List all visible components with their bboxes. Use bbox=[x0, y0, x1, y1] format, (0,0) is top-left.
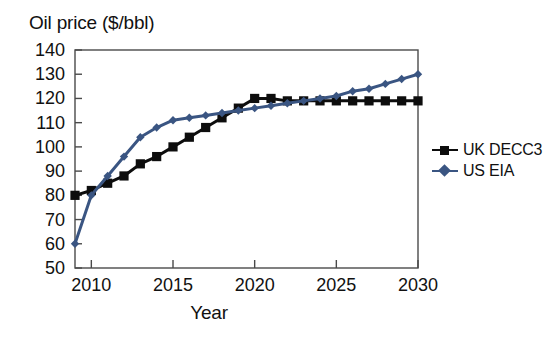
legend-item-uk-decc3: UK DECC3 bbox=[432, 139, 556, 160]
data-point-marker bbox=[414, 70, 422, 78]
legend-label-us-eia: US EIA bbox=[463, 163, 514, 179]
y-tick-label: 130 bbox=[35, 64, 65, 84]
series-line-uk-decc3 bbox=[75, 98, 418, 195]
y-tick-label: 100 bbox=[35, 137, 65, 157]
data-point-marker bbox=[136, 159, 145, 168]
data-point-marker bbox=[397, 96, 406, 105]
data-point-marker bbox=[397, 75, 405, 83]
data-point-marker bbox=[250, 104, 258, 112]
legend-marker-diamond-icon bbox=[432, 164, 458, 178]
x-tick-label: 2020 bbox=[235, 275, 275, 295]
data-point-marker bbox=[185, 133, 194, 142]
x-tick-label: 2025 bbox=[316, 275, 356, 295]
data-point-marker bbox=[168, 142, 177, 151]
y-tick-label: 110 bbox=[36, 113, 65, 133]
data-point-marker bbox=[348, 96, 357, 105]
data-point-marker bbox=[185, 114, 193, 122]
y-tick-label: 70 bbox=[45, 210, 65, 230]
y-tick-label: 50 bbox=[45, 258, 65, 278]
y-tick-label: 120 bbox=[35, 88, 65, 108]
x-axis-title: Year bbox=[0, 302, 418, 324]
legend-item-us-eia: US EIA bbox=[432, 160, 556, 181]
data-point-marker bbox=[413, 96, 422, 105]
data-point-marker bbox=[71, 240, 79, 248]
y-tick-label: 140 bbox=[35, 40, 65, 60]
data-point-marker bbox=[201, 111, 209, 119]
data-point-marker bbox=[70, 191, 79, 200]
legend-marker-square-icon bbox=[432, 143, 458, 157]
y-tick-label: 90 bbox=[45, 161, 65, 181]
chart-legend: UK DECC3 US EIA bbox=[432, 139, 556, 181]
data-point-marker bbox=[201, 123, 210, 132]
y-tick-label: 80 bbox=[45, 185, 65, 205]
data-point-marker bbox=[381, 96, 390, 105]
x-tick-label: 2015 bbox=[153, 275, 193, 295]
x-tick-label: 2010 bbox=[71, 275, 111, 295]
data-point-marker bbox=[365, 85, 373, 93]
data-point-marker bbox=[348, 87, 356, 95]
data-point-marker bbox=[381, 80, 389, 88]
data-point-marker bbox=[250, 94, 259, 103]
legend-label-uk-decc3: UK DECC3 bbox=[463, 142, 542, 158]
data-point-marker bbox=[152, 152, 161, 161]
chart-figure: Oil price ($/bbl) 5060708090100110120130… bbox=[0, 0, 560, 337]
data-point-marker bbox=[119, 171, 128, 180]
data-point-marker bbox=[364, 96, 373, 105]
x-tick-label: 2030 bbox=[398, 275, 438, 295]
y-tick-label: 60 bbox=[45, 234, 65, 254]
